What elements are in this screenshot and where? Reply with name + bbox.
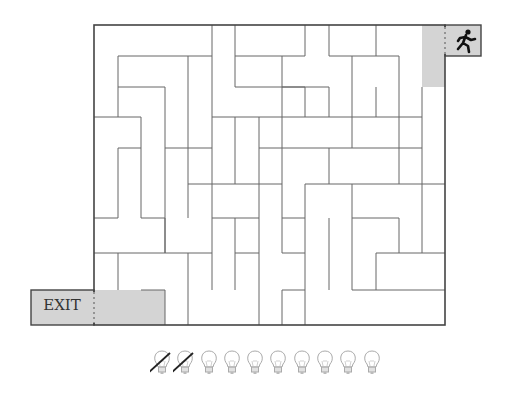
lightbulb-icon xyxy=(336,347,359,377)
exit-label: EXIT xyxy=(31,287,93,323)
exit-zone xyxy=(94,290,165,325)
lightbulb-icon xyxy=(243,347,266,377)
lightbulb-icon xyxy=(313,347,336,377)
running-man-icon xyxy=(452,28,480,54)
maze-board xyxy=(0,0,521,398)
lightbulb-icon xyxy=(150,347,173,377)
lightbulb-icon xyxy=(197,347,220,377)
lives-bar xyxy=(150,347,383,377)
lightbulb-icon xyxy=(220,347,243,377)
lightbulb-icon xyxy=(290,347,313,377)
lightbulb-icon xyxy=(266,347,289,377)
maze-outer-border xyxy=(94,25,445,325)
lightbulb-icon xyxy=(173,347,196,377)
maze-walls xyxy=(94,25,445,325)
start-zone xyxy=(422,25,445,87)
lightbulb-icon xyxy=(360,347,383,377)
